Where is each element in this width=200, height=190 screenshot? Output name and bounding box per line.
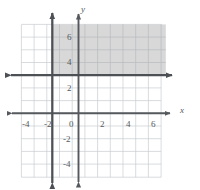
x-tick-label: 6 [151,119,156,129]
coordinate-plane-figure: -4 -2 0 2 4 6 6 4 2 -2 -4 x y [0,0,200,190]
x-tick-label: 0 [69,119,74,129]
y-tick-label: 4 [67,57,72,67]
y-axis-label: y [80,4,85,14]
x-axis-label: x [179,105,184,115]
y-tick-label: -4 [63,159,71,169]
y-tick-label: 6 [67,32,72,42]
x-tick-label: 4 [126,119,131,129]
x-tick-label: -4 [22,119,30,129]
x-tick-label: 2 [100,119,105,129]
y-tick-label: 2 [67,83,72,93]
x-tick-label: -2 [44,119,52,129]
coordinate-plane-svg: -4 -2 0 2 4 6 6 4 2 -2 -4 x y [0,0,200,190]
y-tick-label: -2 [63,134,71,144]
